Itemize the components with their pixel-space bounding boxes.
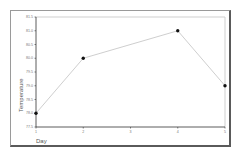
series-temperature xyxy=(34,29,226,115)
line-chart: 77.578.078.579.079.580.080.581.081.5 123… xyxy=(0,0,236,158)
y-tick-label: 80.5 xyxy=(26,43,33,47)
series-line xyxy=(36,31,225,114)
y-tick-label: 78.0 xyxy=(26,111,33,115)
x-tick-label: 4 xyxy=(177,130,179,134)
y-axis-ticks: 77.578.078.579.079.580.080.581.081.5 xyxy=(26,15,36,129)
x-tick-label: 3 xyxy=(130,130,132,134)
data-point xyxy=(176,29,179,32)
data-point xyxy=(34,112,37,115)
x-tick-label: 1 xyxy=(35,130,37,134)
data-point xyxy=(223,84,226,87)
y-tick-label: 78.5 xyxy=(26,98,33,102)
x-tick-label: 2 xyxy=(82,130,84,134)
y-tick-label: 81.0 xyxy=(26,29,33,33)
y-tick-label: 79.0 xyxy=(26,84,33,88)
y-tick-label: 77.5 xyxy=(26,125,33,129)
x-axis-ticks: 12345 xyxy=(35,127,226,134)
axes xyxy=(36,17,225,127)
y-tick-label: 81.5 xyxy=(26,15,33,19)
y-tick-label: 79.5 xyxy=(26,70,33,74)
x-tick-label: 5 xyxy=(224,130,226,134)
plot-border xyxy=(36,17,225,127)
x-axis-title: Day xyxy=(36,138,47,144)
y-axis-title: Temperature xyxy=(18,78,24,112)
data-point xyxy=(82,57,85,60)
y-tick-label: 80.0 xyxy=(26,56,33,60)
